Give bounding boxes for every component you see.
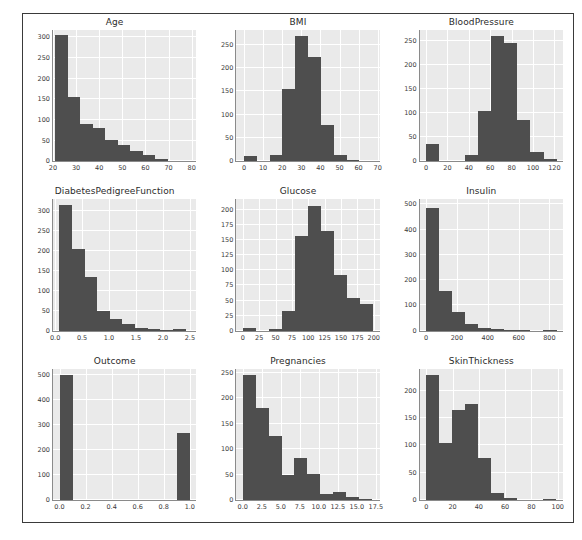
histogram-bar	[478, 458, 491, 500]
histogram-bar	[307, 474, 320, 500]
x-tick-label: 125	[318, 334, 330, 342]
x-tick-label: 0.4	[106, 503, 116, 511]
x-tick-label: 10	[259, 164, 267, 172]
x-axis-line	[419, 161, 563, 162]
plot-area	[420, 30, 563, 161]
y-tick-label: 100	[221, 111, 233, 119]
y-tick-label: 50	[408, 133, 416, 141]
y-tick-label: 250	[38, 54, 50, 62]
x-tick-label: 70	[374, 164, 382, 172]
subplot-title: Glucose	[206, 186, 389, 196]
histogram-bar	[347, 298, 360, 331]
x-tick-label: 80	[188, 164, 196, 172]
subplot-outcome: Outcome01002003004005000.00.20.40.60.81.…	[23, 353, 206, 522]
histogram-bar	[452, 410, 465, 500]
y-axis-line	[419, 199, 420, 330]
bar-series	[236, 199, 379, 330]
histogram-bar	[130, 151, 142, 161]
x-tick-label: 200	[451, 334, 463, 342]
histogram-bar	[110, 319, 123, 331]
y-tick-label: 50	[225, 471, 233, 479]
x-tick-label: 20	[443, 164, 451, 172]
histogram-bar	[308, 206, 321, 331]
plot-area	[420, 199, 563, 330]
subplot-title: BloodPressure	[390, 17, 573, 27]
x-tick-label: 30	[297, 164, 305, 172]
y-tick-label: 50	[225, 134, 233, 142]
histogram-bar	[478, 111, 491, 162]
subplot-glucose: Glucose025507510012515017520002550751001…	[206, 183, 389, 352]
histogram-bar	[517, 120, 530, 161]
histogram-bar	[321, 125, 334, 161]
x-tick-label: 20	[448, 503, 456, 511]
y-tick-label: 0	[413, 496, 417, 504]
x-tick-label: 60	[486, 164, 494, 172]
y-axis-line	[235, 369, 236, 500]
y-tick-label: 200	[221, 206, 233, 214]
y-tick-label: 250	[221, 41, 233, 49]
x-tick-label: 0.0	[238, 503, 248, 511]
x-tick-label: 2.5	[257, 503, 267, 511]
x-axis-line	[52, 161, 196, 162]
plot-wrap: 0255075100125150175200025507510012515017…	[236, 199, 379, 330]
histogram-grid-figure: Age05010015020025030020304050607080BMI05…	[0, 0, 582, 540]
bar-series	[236, 369, 379, 500]
histogram-bar	[333, 492, 346, 500]
y-tick-label: 100	[38, 116, 50, 124]
subplot-age: Age05010015020025030020304050607080	[23, 14, 206, 183]
subplot-title: SkinThickness	[390, 356, 573, 366]
plot-wrap: 050100150200250010203040506070	[236, 30, 379, 161]
histogram-bar	[491, 36, 504, 162]
histogram-bar	[80, 124, 92, 161]
x-tick-label: 2.0	[158, 334, 168, 342]
histogram-bar	[282, 89, 295, 161]
x-tick-label: 0	[424, 164, 428, 172]
subplot-insulin: Insulin01002003004005000200400600800	[390, 183, 573, 352]
y-tick-label: 250	[221, 369, 233, 377]
histogram-bar	[294, 458, 307, 500]
y-axis-line	[235, 30, 236, 161]
x-tick-label: 15.0	[350, 503, 364, 511]
histogram-bar	[504, 43, 517, 161]
histogram-bar	[282, 475, 295, 500]
plot-area	[53, 199, 196, 330]
y-tick-label: 200	[38, 247, 50, 255]
bar-series	[53, 199, 196, 330]
y-tick-label: 400	[404, 226, 416, 234]
x-tick-label: 0	[424, 334, 428, 342]
y-tick-label: 100	[221, 266, 233, 274]
y-axis-line	[235, 199, 236, 330]
plot-wrap: 01002003004005000.00.20.40.60.81.0	[53, 369, 196, 500]
y-tick-label: 50	[225, 297, 233, 305]
plot-area	[236, 30, 379, 161]
subplot-title: DiabetesPedigreeFunction	[23, 186, 206, 196]
histogram-bar	[93, 128, 105, 161]
x-tick-label: 40	[475, 503, 483, 511]
histogram-bar	[334, 275, 347, 331]
x-tick-label: 60	[501, 503, 509, 511]
bar-series	[53, 369, 196, 500]
x-tick-label: 70	[164, 164, 172, 172]
x-tick-label: 10.0	[312, 503, 326, 511]
y-axis-line	[52, 369, 53, 500]
y-tick-label: 300	[38, 421, 50, 429]
histogram-bar	[321, 231, 334, 330]
x-tick-label: 100	[302, 334, 314, 342]
plot-area	[236, 199, 379, 330]
y-tick-label: 500	[38, 371, 50, 379]
figure-frame: Age05010015020025030020304050607080BMI05…	[22, 13, 574, 523]
plot-wrap: 01002003004005000200400600800	[420, 199, 563, 330]
y-tick-label: 200	[38, 446, 50, 454]
histogram-bar	[295, 236, 308, 331]
y-tick-label: 75	[225, 281, 233, 289]
x-tick-label: 50	[118, 164, 126, 172]
histogram-bar	[426, 144, 439, 161]
x-tick-label: 20	[49, 164, 57, 172]
x-tick-label: 17.5	[369, 503, 383, 511]
histogram-bar	[360, 304, 373, 331]
histogram-bar	[55, 35, 67, 161]
y-tick-label: 200	[38, 75, 50, 83]
x-tick-label: 25	[255, 334, 263, 342]
histogram-bar	[308, 57, 321, 162]
x-tick-label: 80	[527, 503, 535, 511]
